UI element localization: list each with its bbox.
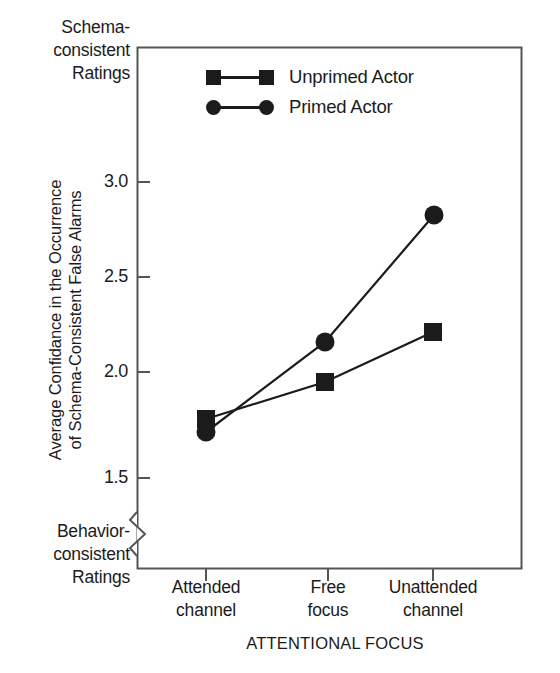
series-primed-actor xyxy=(197,206,444,442)
square-marker-icon xyxy=(206,70,221,85)
circle-marker-icon xyxy=(206,100,221,115)
series-line-primed-actor xyxy=(206,215,434,432)
legend-label: Unprimed Actor xyxy=(289,62,414,92)
data-point-unprimed-attended xyxy=(197,410,215,428)
data-point-primed-free xyxy=(316,333,335,352)
x-tick-label-attended-channel: Attended channel xyxy=(136,576,276,622)
square-marker-icon xyxy=(259,70,274,85)
figure-container: Schema- consistent Ratings Behavior- con… xyxy=(0,0,560,673)
data-point-unprimed-free xyxy=(316,373,334,391)
circle-marker-icon xyxy=(259,100,274,115)
data-point-unprimed-unattended xyxy=(424,323,442,341)
y-axis-ticks xyxy=(137,182,150,478)
legend-label: Primed Actor xyxy=(289,92,393,122)
x-axis-title: ATTENTIONAL FOCUS xyxy=(140,634,530,653)
plot-frame xyxy=(138,48,522,569)
x-axis-tick-labels: Attended channel Free focus Unattended c… xyxy=(0,576,560,636)
x-tick-label-unattended-channel: Unattended channel xyxy=(363,576,503,622)
plot-canvas xyxy=(0,0,560,673)
data-point-primed-unattended xyxy=(425,206,444,225)
